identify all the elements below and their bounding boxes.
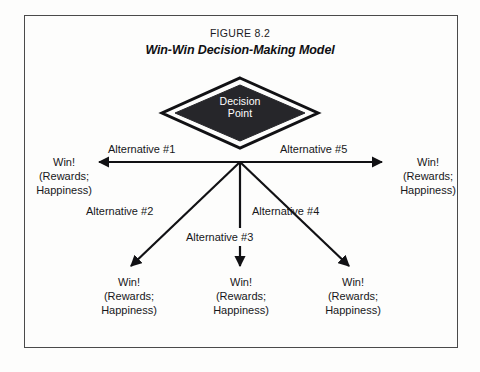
figure-title: Win-Win Decision-Making Model bbox=[0, 43, 480, 58]
outcome-alternative-2: Win! (Rewards; Happiness) bbox=[84, 276, 174, 317]
outcome-line-1: Win! bbox=[84, 276, 174, 290]
label-alternative-1: Alternative #1 bbox=[108, 143, 175, 155]
outcome-line-1: Win! bbox=[308, 276, 398, 290]
outcome-line-3: Happiness) bbox=[196, 304, 286, 318]
outcome-line-2: (Rewards; bbox=[84, 290, 174, 304]
outcome-alternative-1: Win! (Rewards; Happiness) bbox=[22, 156, 106, 197]
outcome-line-2: (Rewards; bbox=[308, 290, 398, 304]
label-alternative-4: Alternative #4 bbox=[252, 205, 319, 217]
outcome-line-2: (Rewards; bbox=[22, 170, 106, 184]
outcome-line-3: Happiness) bbox=[22, 184, 106, 198]
label-alternative-5: Alternative #5 bbox=[280, 143, 347, 155]
decision-point-label: Decision Point bbox=[196, 96, 284, 120]
outcome-line-1: Win! bbox=[384, 156, 472, 170]
outcome-line-1: Win! bbox=[196, 276, 286, 290]
outcome-alternative-4: Win! (Rewards; Happiness) bbox=[308, 276, 398, 317]
label-alternative-3: Alternative #3 bbox=[186, 231, 253, 243]
label-alternative-2: Alternative #2 bbox=[86, 205, 153, 217]
outcome-line-1: Win! bbox=[22, 156, 106, 170]
outcome-line-3: Happiness) bbox=[308, 304, 398, 318]
outcome-line-3: Happiness) bbox=[384, 184, 472, 198]
outcome-line-3: Happiness) bbox=[84, 304, 174, 318]
figure-page: FIGURE 8.2 Win-Win Decision-Making Model… bbox=[0, 0, 480, 372]
outcome-alternative-5: Win! (Rewards; Happiness) bbox=[384, 156, 472, 197]
decision-point-label-line1: Decision bbox=[196, 96, 284, 108]
decision-point-label-line2: Point bbox=[196, 108, 284, 120]
outcome-line-2: (Rewards; bbox=[196, 290, 286, 304]
outcome-alternative-3: Win! (Rewards; Happiness) bbox=[196, 276, 286, 317]
outcome-line-2: (Rewards; bbox=[384, 170, 472, 184]
figure-number: FIGURE 8.2 bbox=[0, 27, 480, 39]
